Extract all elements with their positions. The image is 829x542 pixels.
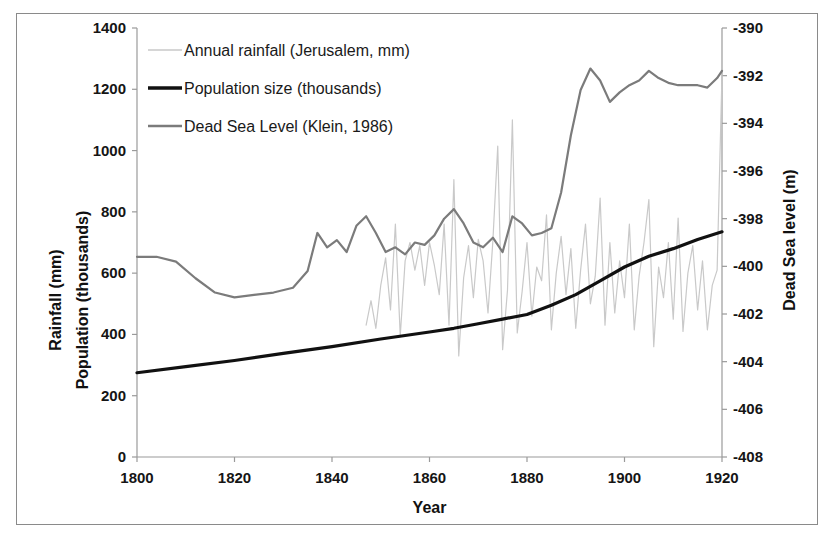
y-tick-label-left: 800 [101, 203, 126, 220]
legend-label-1: Population size (thousands) [184, 80, 381, 97]
y-tick-label-right: -390 [733, 19, 763, 36]
series-line-1 [137, 232, 722, 373]
series-line-0 [366, 74, 722, 356]
x-tick-label: 1860 [413, 469, 446, 486]
x-axis-title: Year [413, 499, 447, 516]
legend-label-2: Dead Sea Level (Klein, 1986) [184, 118, 393, 135]
y-tick-label-left: 0 [118, 448, 126, 465]
y-tick-label-left: 1200 [93, 80, 126, 97]
figure: 0200400600800100012001400-408-406-404-40… [0, 0, 829, 542]
x-tick-label: 1880 [510, 469, 543, 486]
y-tick-label-right: -408 [733, 448, 763, 465]
x-tick-label: 1800 [120, 469, 153, 486]
y-tick-label-left: 600 [101, 264, 126, 281]
y-tick-label-right: -392 [733, 67, 763, 84]
x-tick-label: 1820 [218, 469, 251, 486]
y-tick-label-left: 1000 [93, 142, 126, 159]
y-tick-label-right: -394 [733, 114, 764, 131]
y-tick-label-right: -396 [733, 162, 763, 179]
y-tick-label-right: -406 [733, 400, 763, 417]
y-tick-label-left: 400 [101, 325, 126, 342]
y-tick-label-right: -402 [733, 305, 763, 322]
legend-label-0: Annual rainfall (Jerusalem, mm) [184, 42, 410, 59]
y-axis-title-right: Dead Sea level (m) [781, 169, 798, 310]
y-tick-label-right: -398 [733, 210, 763, 227]
y-axis-title-left-line1: Rainfall (mm) [47, 249, 64, 350]
y-tick-label-left: 1400 [93, 19, 126, 36]
y-tick-label-left: 200 [101, 387, 126, 404]
chart-canvas: 0200400600800100012001400-408-406-404-40… [0, 0, 829, 542]
x-tick-label: 1920 [705, 469, 738, 486]
x-tick-label: 1900 [608, 469, 641, 486]
y-tick-label-right: -404 [733, 353, 764, 370]
y-axis-title-left-line2: Population (thousands) [74, 211, 91, 390]
x-tick-label: 1840 [315, 469, 348, 486]
y-tick-label-right: -400 [733, 257, 763, 274]
